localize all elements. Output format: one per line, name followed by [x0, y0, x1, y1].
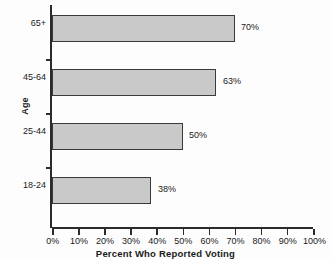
- bar-chart: Age 65+ 45-64 25-44 18-24 70% 63% 50% 38…: [0, 0, 331, 260]
- bar-65-plus[interactable]: [52, 15, 235, 42]
- x-axis-tick: [104, 229, 106, 235]
- x-axis-tick: [209, 229, 211, 235]
- y-axis-tick: [46, 113, 52, 115]
- bar-value-45-64: 63%: [223, 76, 241, 86]
- x-axis-tick: [313, 229, 315, 235]
- y-axis-label-65-plus: 65+: [0, 18, 46, 28]
- x-axis-tick-label: 100%: [298, 236, 331, 246]
- y-axis-label-25-44: 25-44: [0, 126, 46, 136]
- y-axis-tick: [46, 167, 52, 169]
- y-axis-label-18-24: 18-24: [0, 180, 46, 190]
- bar-value-65-plus: 70%: [241, 22, 259, 32]
- bar-value-18-24: 38%: [158, 184, 176, 194]
- x-axis-tick: [287, 229, 289, 235]
- y-axis-tick: [46, 59, 52, 61]
- bar-18-24[interactable]: [52, 177, 151, 204]
- x-axis-tick: [183, 229, 185, 235]
- x-axis-tick: [156, 229, 158, 235]
- y-axis-label-45-64: 45-64: [0, 72, 46, 82]
- x-axis-tick: [235, 229, 237, 235]
- x-axis-tick: [52, 229, 54, 235]
- x-axis-tick: [130, 229, 132, 235]
- bar-value-25-44: 50%: [189, 130, 207, 140]
- bar-25-44[interactable]: [52, 123, 183, 150]
- x-axis-tick: [261, 229, 263, 235]
- bar-45-64[interactable]: [52, 69, 216, 96]
- x-axis-tick: [78, 229, 80, 235]
- x-axis-title: Percent Who Reported Voting: [0, 248, 331, 259]
